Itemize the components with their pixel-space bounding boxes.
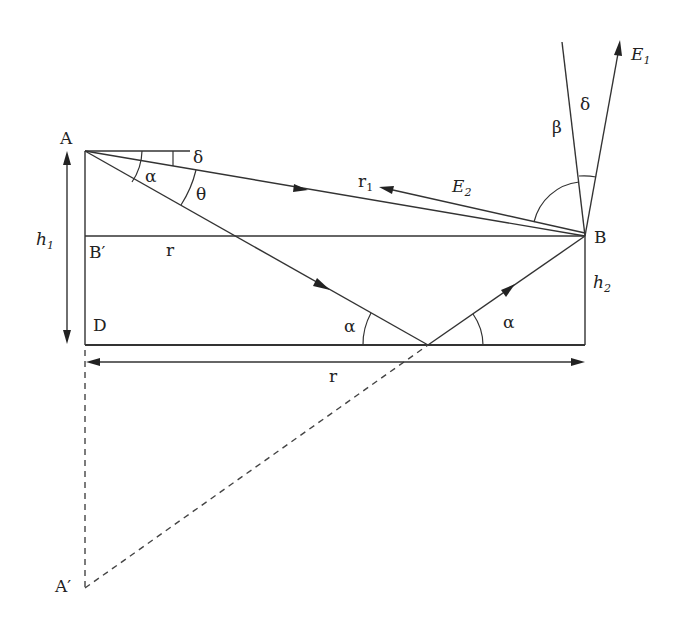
- e1-arrowhead: [614, 40, 622, 56]
- label-alpha-incident: α: [344, 316, 356, 336]
- label-B: B: [594, 227, 607, 247]
- incident-ray-arrow: [313, 278, 330, 290]
- theta-arc-A: [181, 170, 196, 205]
- label-A: A: [59, 128, 73, 148]
- reflected-ray-arrow: [501, 284, 515, 297]
- label-delta-A: δ: [193, 147, 203, 167]
- h1-arrow-top: [63, 151, 71, 165]
- normal-at-B: [562, 42, 585, 236]
- label-r-lower: r: [329, 366, 338, 386]
- label-beta-B: β: [552, 117, 562, 137]
- beta-arc-B: [534, 182, 579, 222]
- alpha-arc-reflected: [473, 314, 483, 345]
- label-alpha-reflected: α: [503, 312, 515, 332]
- two-ray-reflection-diagram: A B B′ D A′ h1 h2 r r r1 α δ θ α α β δ E…: [0, 0, 686, 630]
- label-r-upper: r: [166, 240, 175, 260]
- image-ray-dashed: [85, 345, 428, 588]
- label-Bprime: B′: [89, 242, 105, 262]
- r-arrow-right: [571, 358, 585, 366]
- e2-arrowhead: [379, 186, 394, 194]
- label-E1: E1: [630, 44, 650, 67]
- label-alpha-A: α: [145, 166, 157, 186]
- e1-vector: [585, 48, 619, 236]
- label-D: D: [93, 315, 107, 335]
- label-h1: h1: [36, 229, 54, 252]
- h1-arrow-bottom: [63, 330, 71, 344]
- label-delta-B: δ: [580, 94, 590, 114]
- label-r1: r1: [358, 171, 373, 194]
- r-arrow-left: [86, 358, 100, 366]
- alpha-arc-incident: [363, 313, 371, 345]
- label-E2: E2: [451, 176, 471, 199]
- delta-arc-B: [579, 176, 596, 177]
- e2-vector: [384, 188, 585, 233]
- label-theta-A: θ: [196, 184, 206, 204]
- alpha-arc-A: [132, 151, 142, 182]
- label-Aprime: A′: [54, 576, 71, 596]
- label-h2: h2: [593, 272, 611, 295]
